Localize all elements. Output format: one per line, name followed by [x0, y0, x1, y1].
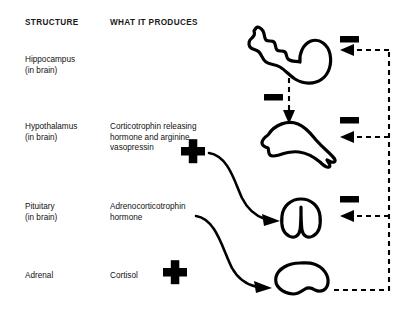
- plus-sign-acth-to-adrenal: [163, 260, 187, 284]
- diagram-graphics-layer: [0, 0, 413, 312]
- minus-sign-cortisol-to-hypothalamus: [340, 117, 359, 124]
- feedback-branch-to-hippocampus: [340, 44, 389, 56]
- organ-hippocampus: [249, 27, 331, 83]
- plus-sign-crh-to-pituitary: [181, 139, 205, 163]
- diagram-canvas: STRUCTURE WHAT IT PRODUCES Hippocampus (…: [0, 0, 413, 312]
- feedback-branch-to-pituitary: [340, 210, 389, 222]
- minus-sign-hippocampus-to-hypothalamus: [264, 94, 283, 101]
- organ-adrenal: [276, 263, 328, 294]
- minus-sign-cortisol-to-hippocampus: [340, 36, 359, 43]
- minus-sign-cortisol-to-pituitary: [340, 196, 359, 203]
- feedback-branch-to-hypothalamus: [340, 131, 389, 143]
- organ-pituitary: [282, 199, 320, 237]
- stimulation-arrow-to-pituitary: [209, 153, 280, 226]
- stimulation-arrow-to-adrenal: [196, 216, 272, 293]
- feedback-arrow-hippocampus-to-hypothalamus: [283, 78, 295, 124]
- feedback-trunk-cortisol: [334, 50, 389, 290]
- organ-hypothalamus: [262, 122, 335, 167]
